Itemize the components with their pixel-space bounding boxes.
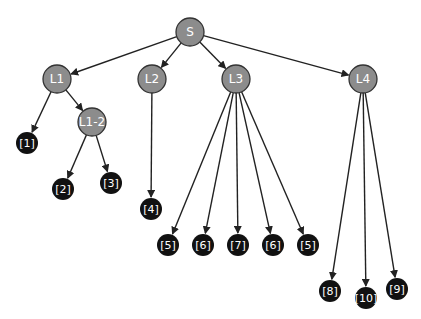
edge-L4-to-n9 [365,93,395,277]
node-l4: L4 [349,65,377,93]
edge-L1-2-to-n3 [96,135,107,171]
node-n5a: [5] [157,234,179,256]
node-n6a: [6] [192,234,214,256]
node-l2: L2 [138,65,166,93]
edge-L1-to-L1-2 [66,90,83,111]
node-label: [5] [160,239,176,252]
edges [32,36,395,286]
edge-S-to-L2 [161,43,181,67]
node-n10: [10] [355,287,378,309]
node-n6b: [6] [262,234,284,256]
node-n4: [4] [140,198,162,220]
edge-L1-to-n1 [32,92,51,132]
node-n7: [7] [227,234,249,256]
edge-L3-to-n6a [205,93,233,233]
node-label: L4 [356,72,370,86]
node-l1-2: L1-2 [78,108,106,136]
node-n5b: [5] [297,234,319,256]
edge-L4-to-n10 [363,93,366,286]
tree-diagram: SL1L2L3L4L1-2[1][2][3][4][5][6][7][6][5]… [0,0,421,319]
node-label: [8] [322,285,338,298]
node-label: [3] [103,177,119,190]
node-label: [7] [230,239,246,252]
node-label: L3 [229,72,243,86]
node-label: [4] [143,203,159,216]
node-n9: [9] [386,278,408,300]
edge-L3-to-n5a [173,92,231,234]
node-l1: L1 [43,65,71,93]
edge-L4-to-n8 [332,93,361,279]
edge-L1-2-to-n2 [68,135,87,178]
edge-L3-to-n5b [242,92,304,234]
node-label: [5] [300,239,316,252]
edge-S-to-L3 [200,42,226,68]
node-n3: [3] [100,172,122,194]
node-l3: L3 [222,65,250,93]
node-n1: [1] [16,132,38,154]
node-label: [1] [19,137,35,150]
node-n8: [8] [319,280,341,302]
edge-L2-to-n4 [151,93,152,197]
node-label: L1-2 [79,115,105,129]
node-label: L1 [50,72,64,86]
node-n2: [2] [52,178,74,200]
node-label: [6] [195,239,211,252]
edge-L3-to-n6b [239,93,270,234]
node-s: S [176,18,204,46]
node-label: [6] [265,239,281,252]
edge-L3-to-n7 [236,93,238,233]
node-label: [2] [55,183,71,196]
node-label: [10] [355,292,378,305]
node-label: [9] [389,283,405,296]
node-label: L2 [145,72,159,86]
node-label: S [186,25,194,39]
